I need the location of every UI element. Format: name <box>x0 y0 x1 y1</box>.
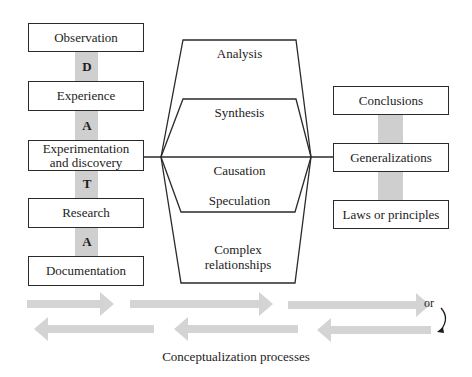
box-laws-or-principles: Laws or principles <box>333 200 449 229</box>
backward-arrows <box>34 317 431 342</box>
letter-d: D <box>75 59 99 75</box>
box-observation: Observation <box>28 23 144 52</box>
curved-arrow-icon <box>441 308 446 330</box>
box-generalizations: Generalizations <box>333 143 449 172</box>
label-synthesis: Synthesis <box>183 105 296 120</box>
box-experience: Experience <box>28 81 144 111</box>
box-experimentation: Experimentation and discovery <box>28 140 144 171</box>
box-documentation: Documentation <box>28 256 144 286</box>
or-label: or <box>424 296 434 311</box>
label-complex-relationships: Complex relationships <box>198 242 278 272</box>
box-conclusions: Conclusions <box>333 86 449 115</box>
letter-t: T <box>75 176 99 192</box>
forward-arrows <box>27 292 430 317</box>
caption: Conceptualization processes <box>0 349 472 365</box>
label-analysis: Analysis <box>183 46 296 61</box>
label-speculation: Speculation <box>183 193 296 208</box>
label-causation: Causation <box>183 163 296 178</box>
box-research: Research <box>28 198 144 228</box>
letter-a1: A <box>75 118 99 134</box>
letter-a2: A <box>75 234 99 250</box>
